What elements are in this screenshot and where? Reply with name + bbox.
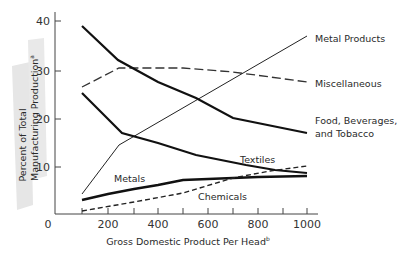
label-miscellaneous: Miscellaneous [315,78,382,89]
label-food-line1: Food, Beverages, [315,115,397,126]
x-tick-800: 800 [248,218,269,231]
label-textiles: Textiles [239,154,275,165]
y-axis-title-line1: Percent of Total [17,108,28,181]
x-tick-0: 0 [45,218,52,231]
x-ticks [82,208,307,214]
x-tick-1000: 1000 [293,218,321,231]
label-metals: Metals [114,173,145,184]
series-miscellaneous [82,68,307,87]
y-tick-40: 40 [36,15,50,28]
x-axis-title: Gross Domestic Product Per Headb [106,235,270,247]
series-food-beverages-tobacco [82,26,307,133]
label-metal-products: Metal Products [315,33,385,44]
x-tick-600: 600 [198,218,219,231]
y-tick-20: 20 [36,113,50,126]
y-tick-10: 10 [36,161,50,174]
y-ticks [55,21,61,167]
chart: Percent of Total Manufacturing Productio… [0,0,401,254]
label-chemicals: Chemicals [198,191,247,202]
x-tick-200: 200 [98,218,119,231]
x-tick-400: 400 [148,218,169,231]
label-food-line2: and Tobacco [315,128,374,139]
y-tick-30: 30 [36,65,50,78]
